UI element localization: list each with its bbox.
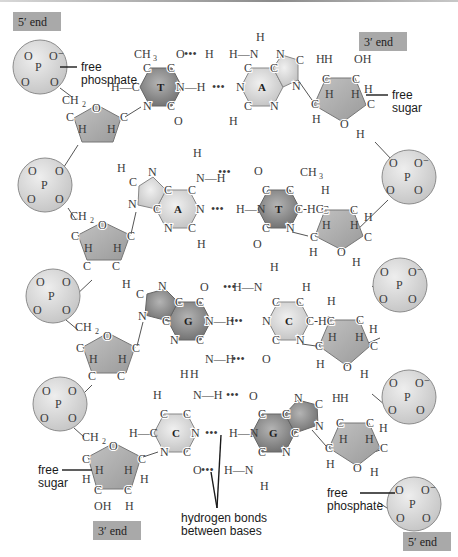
svg-text:H: H	[89, 352, 98, 366]
svg-text:H—C: H—C	[129, 426, 158, 440]
svg-text:CH: CH	[70, 209, 87, 223]
svg-text:O: O	[98, 218, 107, 232]
svg-text:H: H	[95, 463, 104, 477]
svg-text:C: C	[129, 175, 137, 189]
svg-text:N: N	[294, 391, 303, 405]
svg-text:CH: CH	[82, 430, 99, 444]
svg-text:free: free	[81, 60, 102, 74]
svg-text:C: C	[315, 339, 323, 353]
phosphate-group: P OO⁻ OO	[373, 258, 427, 312]
svg-text:O: O	[40, 411, 49, 425]
svg-text:T: T	[157, 81, 165, 93]
svg-text:O: O	[340, 117, 349, 131]
svg-text:CH: CH	[134, 47, 151, 61]
svg-text:O: O	[103, 329, 112, 343]
svg-text:H: H	[193, 146, 202, 160]
svg-text:O: O	[395, 483, 404, 497]
svg-text:N: N	[262, 314, 271, 328]
svg-text:H: H	[360, 367, 369, 381]
phosphate-group: P OO⁻ OO	[13, 40, 67, 94]
svg-text:free: free	[38, 463, 59, 477]
svg-text:H: H	[256, 30, 265, 44]
svg-text:CH: CH	[62, 93, 79, 107]
svg-text:H: H	[107, 122, 116, 136]
deoxyribose-sugar: O CH2 CC HH HH CC OHH	[82, 430, 149, 513]
svg-text:O: O	[396, 511, 405, 525]
svg-text:N—H: N—H	[176, 80, 206, 94]
svg-text:O⁻: O⁻	[421, 483, 436, 497]
svg-text:N: N	[143, 99, 152, 113]
svg-text:C: C	[76, 341, 84, 355]
deoxyribose-sugar: O CH2 CC HH CC	[75, 320, 140, 383]
svg-text:H: H	[364, 82, 373, 96]
svg-text:C: C	[356, 313, 364, 327]
svg-text:C: C	[364, 230, 372, 244]
svg-text:H: H	[325, 87, 334, 101]
svg-text:H: H	[84, 241, 93, 255]
svg-text:O: O	[68, 411, 77, 425]
svg-text:A: A	[174, 203, 182, 215]
svg-text:C: C	[366, 416, 374, 430]
callout-hydrogen-bonds: hydrogen bonds between bases	[181, 435, 267, 538]
svg-text:C: C	[153, 202, 161, 216]
svg-text:C: C	[282, 407, 290, 421]
phosphate-group: P OO⁻ OO	[382, 150, 436, 204]
svg-text:C: C	[138, 452, 146, 466]
svg-text:N: N	[236, 80, 245, 94]
svg-text:O⁻: O⁻	[49, 49, 64, 63]
svg-text:H: H	[340, 391, 349, 405]
svg-text:O⁻: O⁻	[415, 376, 430, 390]
svg-text:N: N	[292, 79, 301, 93]
svg-text:P: P	[48, 289, 55, 303]
svg-text:O: O	[27, 192, 36, 206]
svg-text:H: H	[78, 122, 87, 136]
svg-text:•••: •••	[212, 80, 225, 94]
hydrogen-bond-dots: ••• H ••• ••• ••• ••• ••• ••• ••• ••• ••…	[184, 47, 245, 477]
svg-text:H: H	[312, 112, 321, 126]
svg-text:H: H	[324, 52, 333, 66]
svg-text:H: H	[117, 161, 126, 175]
svg-text:C: C	[188, 221, 196, 235]
svg-text:O: O	[68, 384, 77, 398]
svg-text:H: H	[350, 218, 359, 232]
svg-text:CH: CH	[75, 320, 92, 334]
svg-text:C: C	[370, 339, 378, 353]
svg-text:C: C	[322, 72, 330, 86]
svg-text:•••: •••	[218, 165, 231, 179]
svg-text:•••: •••	[226, 388, 239, 402]
svg-text:H: H	[369, 322, 378, 336]
svg-text:C-HC: C-HC	[306, 314, 335, 328]
svg-text:C: C	[196, 295, 204, 309]
end-label-3prime-bottom-left: 3′ end	[93, 521, 141, 540]
svg-text:between bases: between bases	[181, 524, 262, 538]
svg-text:G: G	[184, 315, 193, 327]
svg-text:C: C	[183, 445, 191, 459]
svg-text:C: C	[315, 397, 323, 411]
svg-text:O: O	[380, 265, 389, 279]
svg-text:C: C	[120, 110, 128, 124]
phosphate-group: P OO OO	[33, 377, 87, 431]
svg-text:O: O	[422, 511, 431, 525]
svg-text:3′ end: 3′ end	[364, 35, 393, 49]
svg-text:C: C	[352, 72, 360, 86]
svg-text:C: C	[132, 341, 140, 355]
svg-text:•••: •••	[184, 47, 197, 61]
svg-text:C: C	[310, 230, 318, 244]
svg-text:O: O	[337, 245, 346, 259]
svg-text:H: H	[113, 241, 122, 255]
svg-text:P: P	[41, 178, 48, 192]
svg-text:N: N	[196, 202, 205, 216]
base-guanine: G O N C CC N H—N C CN H—N H	[224, 389, 324, 493]
svg-text:C: C	[258, 445, 266, 459]
base-guanine: G O N H C CC N C N—H NC N—H HH	[122, 277, 235, 381]
svg-text:C: C	[71, 229, 79, 243]
svg-text:C: C	[83, 259, 91, 273]
svg-text:OH: OH	[354, 52, 372, 66]
svg-text:•••: •••	[205, 426, 218, 440]
svg-text:C: C	[160, 407, 168, 421]
svg-text:O: O	[262, 352, 271, 366]
svg-text:H: H	[309, 245, 318, 259]
svg-text:P: P	[409, 497, 416, 511]
svg-text:C: C	[311, 97, 319, 111]
svg-text:H: H	[205, 47, 214, 61]
